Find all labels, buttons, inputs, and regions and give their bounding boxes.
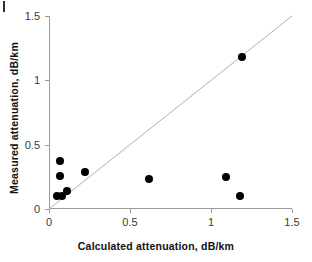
data-point: [238, 53, 246, 61]
data-point: [56, 157, 64, 165]
x-tick-label: 0.5: [122, 217, 137, 228]
data-point: [81, 168, 89, 176]
y-tick: [45, 16, 49, 17]
scatter-plot-figure: 00.511.5 00.511.5 Calculated attenuation…: [0, 0, 312, 262]
y-tick-label: 1.5: [9, 11, 40, 22]
x-tick-label: 1: [208, 217, 214, 228]
plot-area: 00.511.5 00.511.5: [49, 16, 292, 209]
x-tick: [292, 209, 293, 213]
x-tick: [49, 209, 50, 213]
y-tick: [45, 80, 49, 81]
x-tick-label: 0: [46, 217, 52, 228]
y-axis-title: Measured attenuation, dB/km: [8, 28, 20, 208]
data-point: [56, 172, 64, 180]
data-point: [63, 187, 71, 195]
y-tick: [45, 145, 49, 146]
x-tick: [211, 209, 212, 213]
x-tick-label: 1.5: [284, 217, 299, 228]
identity-reference-line: [49, 16, 292, 209]
data-point: [236, 192, 244, 200]
data-point: [222, 173, 230, 181]
data-point: [145, 175, 153, 183]
x-axis-title: Calculated attenuation, dB/km: [0, 240, 312, 252]
corner-mark: [3, 1, 5, 12]
x-tick: [130, 209, 131, 213]
